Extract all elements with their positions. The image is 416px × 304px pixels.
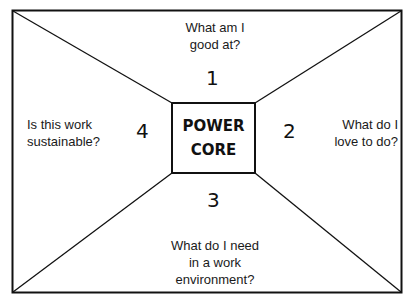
core-label: POWER CORE — [172, 103, 255, 173]
diagonal-top-left — [13, 11, 172, 103]
diagonal-bottom-left — [13, 173, 172, 292]
q3-line-2: in a work — [156, 254, 274, 271]
q3-line-1: What do I need — [156, 237, 274, 254]
quadrant-4-question: Is this work sustainable? — [27, 116, 127, 150]
quadrant-2-question: What do I love to do? — [318, 116, 398, 150]
quadrant-3-number: 3 — [207, 188, 220, 212]
quadrant-3-question: What do I need in a work environment? — [156, 237, 274, 288]
q4-line-2: sustainable? — [27, 133, 127, 150]
core-line-2: CORE — [191, 138, 237, 162]
q2-line-1: What do I — [318, 116, 398, 133]
quadrant-1-question: What am I good at? — [160, 19, 270, 53]
q3-line-3: environment? — [156, 271, 274, 288]
power-core-diagram: POWER CORE What am I good at? 1 2 What d… — [0, 0, 416, 304]
q4-line-1: Is this work — [27, 116, 127, 133]
diagonal-top-right — [255, 11, 401, 103]
q1-line-2: good at? — [160, 36, 270, 53]
diagonal-bottom-right — [255, 173, 401, 292]
quadrant-4-number: 4 — [136, 119, 149, 143]
q1-line-1: What am I — [160, 19, 270, 36]
quadrant-1-number: 1 — [206, 66, 219, 90]
core-line-1: POWER — [182, 114, 244, 138]
quadrant-2-number: 2 — [283, 119, 296, 143]
q2-line-2: love to do? — [318, 133, 398, 150]
